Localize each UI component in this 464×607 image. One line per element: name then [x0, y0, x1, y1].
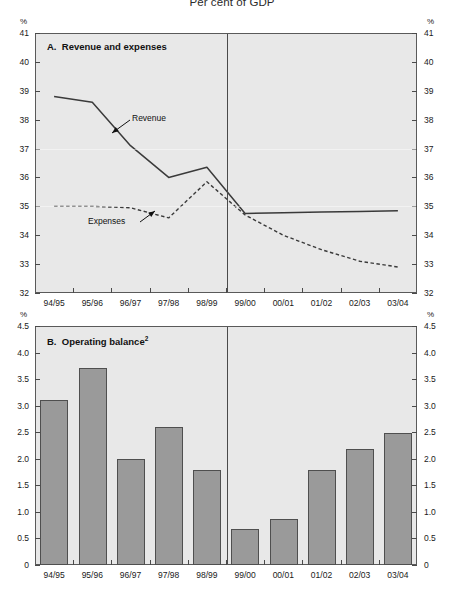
- panel-a-ytick-label-right: 33: [424, 259, 452, 269]
- panel-b-ytick-label-left: 2.5: [1, 427, 29, 437]
- panel-a-xtick-label: 00/01: [264, 298, 302, 308]
- panel-b-xtick: [379, 560, 380, 565]
- panel-b-ytick-label-left: 0.5: [1, 533, 29, 543]
- panel-a-xtick: [264, 288, 265, 293]
- annotation-revenue-label: Revenue: [132, 113, 166, 123]
- panel-b-ytick-left: [35, 326, 40, 327]
- panel-b-unit-right: %: [427, 310, 434, 319]
- panel-b-ytick-label-left: 3.0: [1, 401, 29, 411]
- panel-b-xtick-label: 99/00: [226, 570, 264, 580]
- panel-b-ytick-right: [412, 459, 417, 460]
- panel-b-unit-left: %: [20, 310, 27, 319]
- bar-99-00: [231, 529, 259, 565]
- panel-b-xtick-label: 03/04: [379, 570, 417, 580]
- panel-a-ytick-label-left: 35: [1, 201, 29, 211]
- bar-98-99: [193, 470, 221, 565]
- panel-b-xtick-label: 01/02: [302, 570, 340, 580]
- panel-b-ytick-label-right: 0.5: [424, 533, 452, 543]
- panel-a-xtick: [379, 288, 380, 293]
- panel-a-ytick-right: [412, 91, 417, 92]
- panel-a-ytick-left: [35, 177, 40, 178]
- panel-b-ytick-label-left: 0: [1, 560, 29, 570]
- panel-b-xtick-label: 96/97: [111, 570, 149, 580]
- panel-b-xtick: [150, 560, 151, 565]
- panel-a-ytick-left: [35, 264, 40, 265]
- panel-b-ytick-label-left: 2.0: [1, 454, 29, 464]
- panel-a-ytick-label-left: 36: [1, 172, 29, 182]
- annotation-expenses-arrow: [140, 211, 155, 222]
- panel-a-ytick-label-right: 36: [424, 172, 452, 182]
- panel-b-xtick: [302, 560, 303, 565]
- panel-b-xtick-label: 00/01: [264, 570, 302, 580]
- panel-a-xtick-label: 97/98: [150, 298, 188, 308]
- panel-b-xtick-label: 02/03: [341, 570, 379, 580]
- panel-b-xtick-label: 97/98: [150, 570, 188, 580]
- annotation-expenses-label: Expenses: [88, 216, 125, 226]
- panel-b-ytick-right: [412, 353, 417, 354]
- panel-a-ytick-left: [35, 62, 40, 63]
- panel-b-ytick-right: [412, 512, 417, 513]
- panel-a-xtick: [150, 288, 151, 293]
- panel-b-xtick: [73, 560, 74, 565]
- panel-a-ytick-right: [412, 62, 417, 63]
- bar-94-95: [40, 400, 68, 565]
- panel-a-ytick-right: [412, 264, 417, 265]
- panel-b-ytick-label-left: 3.5: [1, 374, 29, 384]
- panel-b-ytick-label-right: 4.5: [424, 321, 452, 331]
- panel-b-ytick-label-right: 0: [424, 560, 452, 570]
- panel-b-ytick-label-right: 3.0: [424, 401, 452, 411]
- panel-a-ytick-label-left: 38: [1, 115, 29, 125]
- panel-b-ytick-right: [412, 538, 417, 539]
- panel-a-xtick-label: 03/04: [379, 298, 417, 308]
- panel-a-ytick-left: [35, 91, 40, 92]
- annotation-revenue-arrow: [112, 120, 130, 133]
- panel-b-ytick-right: [412, 326, 417, 327]
- panel-b-xtick-label: 95/96: [73, 570, 111, 580]
- panel-a-ytick-left: [35, 293, 40, 294]
- panel-a-xtick-label: 94/95: [35, 298, 73, 308]
- bar-02-03: [346, 449, 374, 565]
- panel-b-ytick-right: [412, 485, 417, 486]
- panel-b-xtick: [341, 560, 342, 565]
- bar-03-04: [384, 433, 412, 565]
- panel-b-xtick-label: 94/95: [35, 570, 73, 580]
- panel-a-ytick-left: [35, 33, 40, 34]
- panel-b-ytick-left: [35, 379, 40, 380]
- panel-b-ytick-right: [412, 565, 417, 566]
- panel-b-ytick-left: [35, 353, 40, 354]
- panel-a-xtick: [73, 288, 74, 293]
- panel-b-title-text: Operating balance: [62, 336, 145, 347]
- panel-a-xtick-label: 98/99: [188, 298, 226, 308]
- panel-b-xtick: [111, 560, 112, 565]
- panel-a-ytick-label-left: 34: [1, 230, 29, 240]
- panel-a-ytick-left: [35, 235, 40, 236]
- panel-b-title-footnote-marker: 2: [145, 335, 149, 342]
- panel-a-ytick-label-right: 37: [424, 144, 452, 154]
- panel-b-ytick-label-left: 4.5: [1, 321, 29, 331]
- panel-a-xtick-label: 96/97: [111, 298, 149, 308]
- panel-a-ytick-label-right: 40: [424, 57, 452, 67]
- panel-a-ytick-right: [412, 177, 417, 178]
- panel-a-ytick-right: [412, 293, 417, 294]
- panel-b-xtick-label: 98/99: [188, 570, 226, 580]
- panel-b-ytick-label-right: 2.0: [424, 454, 452, 464]
- panel-a-ytick-label-left: 40: [1, 57, 29, 67]
- panel-a-ytick-label-right: 35: [424, 201, 452, 211]
- bar-00-01: [270, 519, 298, 565]
- bar-97-98: [155, 427, 183, 565]
- panel-a-ytick-label-left: 32: [1, 288, 29, 298]
- panel-a-ytick-left: [35, 120, 40, 121]
- panel-b-ytick-label-left: 1.5: [1, 480, 29, 490]
- panel-b-ytick-label-right: 3.5: [424, 374, 452, 384]
- panel-b-ytick-label-left: 4.0: [1, 348, 29, 358]
- panel-a-xtick-label: 01/02: [302, 298, 340, 308]
- panel-a-xtick-label: 99/00: [226, 298, 264, 308]
- panel-a-xtick: [111, 288, 112, 293]
- panel-a-ytick-label-left: 37: [1, 144, 29, 154]
- panel-b-forecast-divider: [227, 327, 228, 564]
- panel-a-ytick-label-right: 39: [424, 86, 452, 96]
- bar-95-96: [79, 368, 107, 565]
- panel-b-ytick-left: [35, 565, 40, 566]
- panel-b-title-prefix: B.: [47, 336, 57, 347]
- panel-a-xtick: [188, 288, 189, 293]
